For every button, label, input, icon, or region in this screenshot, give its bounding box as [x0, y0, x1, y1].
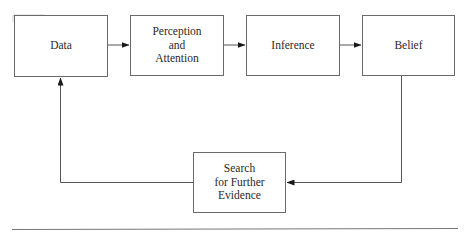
node-search-line-2: for Further — [214, 176, 264, 190]
node-search-line-1: Search — [224, 162, 255, 176]
arrow-belief-to-search — [287, 75, 402, 183]
node-inference-label: Inference — [271, 39, 314, 53]
node-perception-and-attention: Perception and Attention — [130, 15, 224, 76]
node-search-line-3: Evidence — [218, 189, 261, 203]
node-perception-line-3: Attention — [155, 52, 198, 66]
node-belief: Belief — [362, 15, 455, 76]
node-data: Data — [14, 15, 108, 77]
node-perception-line-1: Perception — [152, 25, 201, 39]
arrow-search-to-data — [61, 78, 194, 183]
node-inference: Inference — [246, 15, 340, 76]
bottom-rule — [12, 229, 458, 230]
node-perception-line-2: and — [169, 39, 186, 53]
node-search-for-further-evidence: Search for Further Evidence — [193, 152, 286, 213]
node-belief-label: Belief — [394, 39, 422, 53]
node-data-label: Data — [50, 39, 72, 53]
diagram-canvas: Data Perception and Attention Inference … — [0, 0, 471, 237]
